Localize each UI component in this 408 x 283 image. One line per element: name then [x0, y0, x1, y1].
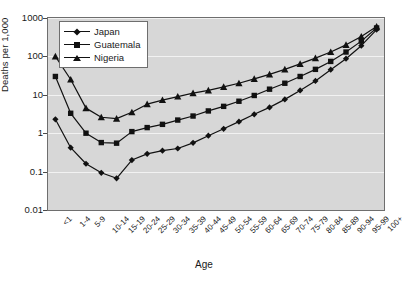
data-point-marker	[160, 122, 165, 127]
legend-item-nigeria: Nigeria	[64, 51, 140, 64]
x-tick-label: 5-9	[93, 215, 107, 229]
data-point-marker	[83, 131, 88, 136]
data-point-marker	[358, 33, 365, 40]
data-point-marker	[67, 76, 74, 83]
data-point-marker	[144, 125, 149, 130]
data-point-marker	[266, 104, 272, 110]
data-point-marker	[313, 67, 318, 72]
data-point-marker	[144, 151, 150, 157]
data-point-marker	[251, 111, 257, 117]
data-point-marker	[297, 60, 304, 67]
data-point-marker	[128, 109, 135, 116]
legend-item-guatemala: Guatemala	[64, 38, 140, 51]
data-point-marker	[343, 49, 348, 54]
data-point-marker	[82, 105, 89, 112]
mortality-by-age-chart: Deaths per 1,000 10001001010.10.01 Japan…	[0, 0, 408, 283]
data-point-marker	[312, 55, 319, 62]
y-tick-label: 1000	[3, 13, 47, 23]
data-point-marker	[252, 93, 257, 98]
data-point-marker	[53, 74, 58, 79]
data-point-marker	[175, 117, 180, 122]
data-point-marker	[175, 145, 181, 151]
data-point-marker	[52, 116, 58, 122]
data-point-marker	[236, 99, 241, 104]
data-point-marker	[159, 148, 165, 154]
x-tick-label: <1	[62, 215, 74, 227]
data-point-marker	[98, 170, 104, 176]
y-tick-label: 0.1	[3, 167, 47, 177]
data-point-marker	[327, 48, 334, 55]
data-point-marker	[190, 113, 195, 118]
data-point-marker	[297, 87, 303, 93]
data-point-marker	[236, 119, 242, 125]
data-point-marker	[205, 133, 211, 139]
data-point-marker	[297, 74, 302, 79]
data-point-marker	[190, 140, 196, 146]
chart-legend: Japan Guatemala Nigeria	[59, 21, 148, 68]
data-point-marker	[342, 41, 349, 48]
data-point-marker	[129, 129, 134, 134]
y-tick-label: 0.01	[3, 205, 47, 215]
legend-label-guatemala: Guatemala	[94, 40, 140, 50]
data-point-marker	[52, 53, 59, 60]
data-point-marker	[282, 96, 288, 102]
data-point-marker	[221, 104, 226, 109]
data-point-marker	[99, 140, 104, 145]
legend-label-japan: Japan	[94, 27, 120, 37]
data-point-marker	[281, 66, 288, 73]
legend-item-japan: Japan	[64, 25, 140, 38]
x-axis-title: Age	[0, 259, 408, 270]
data-point-marker	[114, 140, 119, 145]
y-tick-label: 10	[3, 90, 47, 100]
data-point-marker	[267, 86, 272, 91]
data-point-marker	[221, 126, 227, 132]
data-point-marker	[282, 81, 287, 86]
data-point-marker	[68, 111, 73, 116]
legend-label-nigeria: Nigeria	[94, 53, 124, 63]
y-tick-label: 100	[3, 52, 47, 62]
legend-marker-diamond-icon	[64, 26, 90, 37]
legend-marker-square-icon	[64, 39, 90, 50]
legend-marker-triangle-icon	[64, 52, 90, 63]
y-tick-label: 1	[3, 128, 47, 138]
x-tick-label: 1-4	[78, 215, 92, 229]
gridline	[48, 210, 384, 211]
data-point-marker	[328, 59, 333, 64]
x-axis-ticks: <11-45-910-1415-1920-2425-2930-3435-3940…	[0, 215, 408, 259]
data-point-marker	[206, 108, 211, 113]
